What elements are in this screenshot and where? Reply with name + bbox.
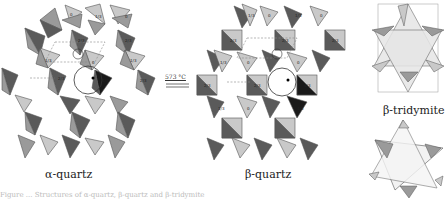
svg-text:2/3: 2/3	[125, 38, 132, 43]
svg-text:2/3: 2/3	[204, 83, 211, 88]
alpha-quartz-diagram: 01/30 2/32/3 01/31/3 2/34/32/3	[0, 0, 160, 165]
svg-text:2/3: 2/3	[140, 78, 147, 83]
svg-text:2/3: 2/3	[58, 76, 65, 81]
svg-text:1/3: 1/3	[220, 60, 227, 65]
svg-text:1/3: 1/3	[248, 13, 255, 18]
beta-tridymite-top-view	[370, 0, 447, 95]
svg-text:1/3: 1/3	[130, 58, 137, 63]
beta-tridymite-label: β-tridymite	[383, 104, 444, 117]
beta-quartz-structure: 1/301/30 2/32/32/3 1/300 2/32/34/3 1/304…	[192, 0, 352, 165]
svg-text:2/3: 2/3	[254, 83, 261, 88]
svg-text:2/3: 2/3	[282, 38, 289, 43]
beta-quartz-diagram: 1/301/30 2/32/32/3 1/300 2/32/34/3 1/304…	[192, 0, 352, 165]
transition-arrow: 573 °C	[163, 70, 191, 90]
svg-text:2/3: 2/3	[78, 38, 85, 43]
beta-quartz-label: β-quartz	[245, 168, 291, 181]
equilibrium-arrow-icon	[163, 70, 191, 90]
svg-text:1/3: 1/3	[218, 106, 225, 111]
svg-text:4/3: 4/3	[304, 83, 311, 88]
alpha-quartz-label: α-quartz	[45, 168, 92, 181]
alpha-quartz-structure: 01/30 2/32/3 01/31/3 2/34/32/3	[0, 0, 160, 165]
beta-tridymite-side-view	[365, 118, 447, 199]
svg-text:1/3: 1/3	[45, 58, 52, 63]
figure-caption: Figure ... Structures of α-quartz, β-qua…	[0, 191, 447, 199]
svg-text:2/3: 2/3	[230, 38, 237, 43]
svg-text:2/3: 2/3	[332, 38, 339, 43]
tridymite-hexagonal-view	[370, 0, 447, 95]
svg-text:4/3: 4/3	[297, 106, 304, 111]
svg-text:4/3: 4/3	[102, 78, 109, 83]
tridymite-tetrahedral-view	[365, 118, 447, 199]
svg-text:1/3: 1/3	[95, 14, 102, 19]
svg-text:1/3: 1/3	[295, 13, 302, 18]
